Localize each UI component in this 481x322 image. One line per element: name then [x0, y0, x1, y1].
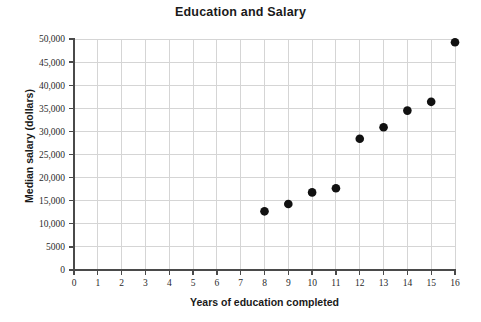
data-point	[260, 207, 269, 216]
data-point	[451, 38, 460, 47]
x-tick-label: 11	[331, 278, 340, 288]
y-tick-label: 20,000	[39, 173, 65, 183]
x-tick-label: 13	[379, 278, 389, 288]
y-tick-label: 40,000	[39, 81, 65, 91]
x-tick-label: 9	[286, 278, 291, 288]
x-tick-label: 15	[426, 278, 436, 288]
y-tick-label: 15,000	[39, 196, 65, 206]
x-tick-label: 0	[72, 278, 77, 288]
x-tick-label: 6	[215, 278, 220, 288]
data-point	[379, 123, 388, 132]
y-tick-label: 10,000	[39, 219, 65, 229]
scatter-chart: Education and Salary Median salary (doll…	[0, 0, 481, 322]
x-tick-label: 3	[143, 278, 148, 288]
x-tick-label: 5	[191, 278, 196, 288]
y-tick-label: 45,000	[39, 58, 65, 68]
data-point	[284, 200, 293, 209]
x-tick-label: 14	[403, 278, 413, 288]
x-tick-label: 1	[95, 278, 100, 288]
y-axis-ticks: 0500010,00015,00020,00025,00030,00035,00…	[39, 34, 74, 275]
y-tick-label: 35,000	[39, 104, 65, 114]
x-tick-label: 8	[262, 278, 267, 288]
x-tick-label: 4	[167, 278, 172, 288]
plot-area: 0500010,00015,00020,00025,00030,00035,00…	[0, 0, 481, 322]
data-point	[308, 188, 317, 197]
data-point	[427, 98, 436, 107]
y-tick-label: 0	[60, 265, 65, 275]
x-tick-label: 10	[307, 278, 317, 288]
y-tick-label: 25,000	[39, 150, 65, 160]
x-tick-label: 2	[119, 278, 124, 288]
data-point	[355, 134, 364, 143]
x-tick-label: 16	[450, 278, 460, 288]
x-tick-label: 12	[355, 278, 365, 288]
x-axis-ticks: 012345678910111213141516	[72, 270, 460, 288]
x-tick-label: 7	[238, 278, 243, 288]
data-point	[403, 106, 412, 115]
y-tick-label: 5000	[46, 242, 65, 252]
y-tick-label: 30,000	[39, 127, 65, 137]
y-tick-label: 50,000	[39, 34, 65, 44]
data-point	[332, 184, 341, 193]
